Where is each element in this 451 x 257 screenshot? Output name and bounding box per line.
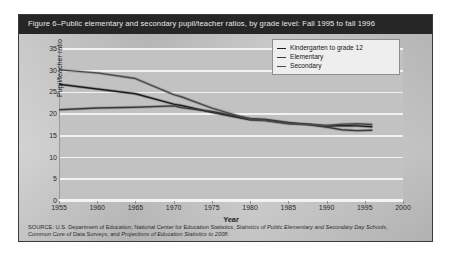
source-line-1: SOURCE: U.S. Department of Education, Na… (28, 224, 423, 232)
x-tick-mark (288, 201, 289, 204)
figure-frame: Figure 6–Public elementary and secondary… (18, 14, 433, 242)
source-note: SOURCE: U.S. Department of Education, Na… (19, 224, 432, 239)
chart-legend: Kindergarten to grade 12ElementarySecond… (272, 39, 400, 75)
x-tick-label: 1970 (166, 204, 182, 211)
legend-label: Elementary (290, 53, 323, 61)
source-line-1-suffix: , (386, 224, 388, 230)
x-tick-mark (135, 201, 136, 204)
y-tick-label: 35 (23, 45, 57, 52)
x-tick-label: 2000 (395, 204, 411, 211)
legend-item: Kindergarten to grade 12 (277, 44, 395, 52)
y-tick-label: 10 (23, 153, 57, 160)
x-tick-mark (212, 201, 213, 204)
series-line-secondary (59, 70, 372, 126)
x-tick-label: 1960 (89, 204, 105, 211)
legend-item: Secondary (277, 62, 395, 70)
scanned-page: Figure 6–Public elementary and secondary… (0, 0, 451, 257)
x-tick-mark (174, 201, 175, 204)
legend-swatch-icon (277, 66, 286, 67)
y-tick-label: 25 (23, 88, 57, 95)
x-tick-mark (403, 201, 404, 204)
legend-label: Kindergarten to grade 12 (290, 44, 363, 52)
source-line-1-prefix: SOURCE: U.S. Department of Education, Na… (28, 224, 236, 230)
x-tick-label: 1985 (281, 204, 297, 211)
x-tick-label: 1955 (51, 204, 67, 211)
source-line-1-italic: Statistics of Public Elementary and Seco… (236, 224, 386, 230)
x-tick-mark (97, 201, 98, 204)
legend-item: Elementary (277, 53, 395, 61)
y-tick-label: 15 (23, 131, 57, 138)
x-tick-label: 1990 (319, 204, 335, 211)
x-axis-label: Year (223, 215, 239, 224)
y-tick-label: 0 (23, 197, 57, 204)
x-tick-label: 1980 (242, 204, 258, 211)
source-line-2-prefix: Common Core of Data Surveys, and (28, 231, 121, 237)
series-line-halo (59, 70, 372, 126)
legend-swatch-icon (277, 48, 286, 49)
source-line-2-italic: Projections of Education Statistics to 2… (121, 231, 227, 237)
source-line-2-suffix: . (228, 231, 230, 237)
x-tick-mark (250, 201, 251, 204)
x-tick-label: 1965 (128, 204, 144, 211)
y-tick-label: 20 (23, 110, 57, 117)
source-line-2: Common Core of Data Surveys, and Project… (28, 231, 423, 239)
figure-title: Figure 6–Public elementary and secondary… (28, 19, 375, 28)
x-tick-label: 1995 (357, 204, 373, 211)
x-tick-mark (59, 201, 60, 204)
y-tick-label: 30 (23, 66, 57, 73)
y-tick-label: 5 (23, 175, 57, 182)
figure-title-bar: Figure 6–Public elementary and secondary… (19, 15, 432, 34)
figure-body: 05101520253035 1955196019651970197519801… (19, 34, 432, 242)
x-tick-mark (365, 201, 366, 204)
legend-label: Secondary (290, 62, 322, 70)
x-tick-label: 1975 (204, 204, 220, 211)
legend-swatch-icon (277, 57, 286, 58)
x-tick-mark (327, 201, 328, 204)
series-line-kindergarten-to-grade-12 (59, 84, 372, 127)
